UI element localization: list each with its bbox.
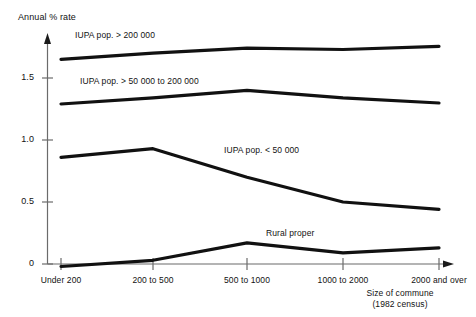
x-axis-caption-line1: Size of commune (340, 288, 460, 298)
x-tick-label-under-200: Under 200 (21, 275, 101, 285)
x-axis-caption-line2: (1982 census) (340, 299, 460, 309)
y-tick-label-0: 0 (8, 258, 34, 268)
series-label-iupa-gt-200000: IUPA pop. > 200 000 (75, 30, 155, 40)
y-tick-label-1-5: 1.5 (8, 72, 34, 82)
series-line-iupa-gt-200000 (61, 46, 439, 59)
x-tick-label-2000-and-over: 2000 and over (396, 275, 476, 285)
series-label-iupa-50000-200000: IUPA pop. > 50 000 to 200 000 (80, 76, 199, 86)
series-line-rural-proper (61, 243, 439, 267)
series-label-rural-proper: Rural proper (266, 228, 314, 238)
y-tick-label-1-0: 1.0 (8, 134, 34, 144)
x-axis-arrow-icon (443, 261, 454, 268)
x-tick-label-200-to-500: 200 to 500 (113, 275, 193, 285)
x-tick-label-500-to-1000: 500 to 1000 (207, 275, 287, 285)
series-label-iupa-lt-50000: IUPA pop. < 50 000 (224, 145, 299, 155)
series-line-iupa-50000-200000 (61, 90, 439, 104)
x-tick-label-1000-to-2000: 1000 to 2000 (303, 275, 383, 285)
y-tick-label-0-5: 0.5 (8, 196, 34, 206)
series-line-iupa-lt-50000 (61, 149, 439, 210)
y-axis-arrow-icon (44, 33, 51, 44)
chart-container: Annual % rate 1.5 1.0 0.5 0 Under 200 20… (0, 0, 476, 317)
y-axis-title: Annual % rate (18, 12, 76, 22)
chart-plot-area (0, 0, 476, 317)
